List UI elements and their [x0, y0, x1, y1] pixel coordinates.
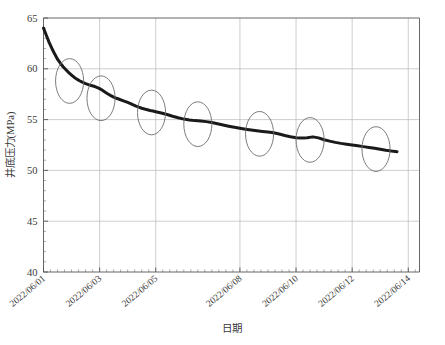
ellipse-annotations [56, 59, 390, 172]
x-tick-label: 2022/06/14 [372, 273, 412, 309]
x-axis-title: 日期 [222, 323, 242, 334]
x-tick-label: 2022/06/03 [64, 273, 104, 309]
y-tick-label: 55 [27, 114, 38, 125]
annotation-ellipse [246, 111, 274, 156]
chart-container: 404550556065 2022/06/012022/06/032022/06… [0, 0, 445, 345]
annotation-ellipse [184, 102, 212, 147]
y-tick-label: 60 [27, 63, 38, 74]
chart-plot-area: 404550556065 2022/06/012022/06/032022/06… [0, 0, 445, 345]
y-tick-label: 45 [27, 216, 38, 227]
data-series-line [44, 28, 398, 152]
annotation-ellipse [87, 76, 115, 121]
x-tick-label: 2022/06/08 [204, 273, 244, 309]
x-tick-label: 2022/06/12 [316, 273, 356, 309]
y-axis-tick-labels: 404550556065 [27, 13, 38, 278]
gridlines [44, 18, 420, 272]
x-tick-label: 2022/06/05 [120, 273, 160, 309]
y-axis-title: 井底压力(MPa) [4, 111, 17, 178]
x-tick-label: 2022/06/10 [260, 273, 300, 309]
y-tick-label: 40 [27, 267, 38, 278]
y-tick-label: 65 [27, 13, 38, 24]
x-axis-tick-labels: 2022/06/012022/06/032022/06/052022/06/08… [8, 273, 413, 309]
x-tick-label: 2022/06/01 [8, 273, 48, 309]
y-tick-label: 50 [27, 165, 38, 176]
pressure-curve [44, 28, 398, 152]
